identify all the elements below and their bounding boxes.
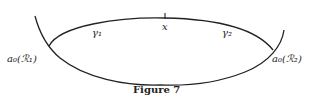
figure-caption: Figure 7 xyxy=(133,84,180,95)
figure-canvas: γ₁ x γ₂ a₀(ℛ₁) a₀(ℛ₂) Figure 7 xyxy=(0,0,319,102)
a0-R1-label: a₀(ℛ₁) xyxy=(7,53,37,64)
gamma2-label: γ₂ xyxy=(222,27,232,38)
upper-arc xyxy=(49,18,273,50)
x-label: x xyxy=(162,21,168,32)
gamma1-label: γ₁ xyxy=(92,27,102,38)
right-curve xyxy=(160,30,284,85)
a0-R2-label: a₀(ℛ₂) xyxy=(272,53,302,64)
